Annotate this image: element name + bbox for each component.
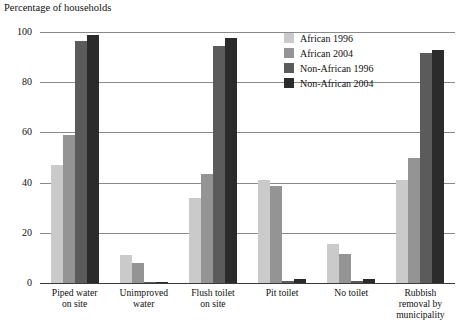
y-axis-tick-label: 40 — [4, 177, 32, 188]
bar — [213, 46, 225, 283]
legend-label: Non-African 2004 — [300, 78, 374, 89]
y-axis-tick-label: 0 — [4, 277, 32, 288]
x-axis-label: Rubbishremoval bymunicipality — [378, 287, 463, 320]
legend-item: African 2004 — [284, 46, 404, 60]
bar — [363, 279, 375, 283]
bar — [420, 53, 432, 283]
bar — [432, 50, 444, 283]
legend-swatch-icon — [284, 48, 294, 58]
bar — [156, 282, 168, 283]
bar — [75, 41, 87, 283]
x-axis-line — [40, 283, 455, 284]
bar — [87, 35, 99, 283]
legend-item: Non-African 2004 — [284, 76, 404, 90]
bar — [132, 263, 144, 283]
gridline — [40, 183, 455, 184]
gridline — [40, 233, 455, 234]
y-axis-tick-label: 80 — [4, 76, 32, 87]
bar — [120, 255, 132, 283]
legend-label: African 1996 — [300, 33, 353, 44]
x-axis-label-line: on site — [170, 298, 255, 309]
x-axis-label-line: removal by — [378, 298, 463, 309]
bar-group — [120, 32, 168, 283]
bar — [144, 282, 156, 283]
x-axis-label-line: Rubbish — [378, 287, 463, 298]
bar — [201, 174, 213, 283]
bar-group — [189, 32, 237, 283]
legend-label: African 2004 — [300, 48, 353, 59]
bar — [408, 158, 420, 284]
legend-item: Non-African 1996 — [284, 61, 404, 75]
y-axis-tick-label: 100 — [4, 26, 32, 37]
y-axis-tick-label: 60 — [4, 126, 32, 137]
y-axis-title: Percentage of households — [4, 2, 124, 14]
bar — [294, 279, 306, 283]
bar-chart: Percentage of households African 1996Afr… — [0, 0, 465, 326]
chart-legend: African 1996African 2004Non-African 1996… — [284, 31, 404, 91]
legend-item: African 1996 — [284, 31, 404, 45]
bar — [270, 186, 282, 283]
legend-swatch-icon — [284, 63, 294, 73]
bar-group — [51, 32, 99, 283]
bar — [339, 254, 351, 283]
bar — [327, 244, 339, 283]
bar — [351, 281, 363, 284]
x-axis-label-line: municipality — [378, 309, 463, 320]
bar — [396, 180, 408, 283]
bar — [63, 135, 75, 283]
bar — [258, 180, 270, 283]
bar — [51, 165, 63, 283]
gridline — [40, 132, 455, 133]
legend-swatch-icon — [284, 78, 294, 88]
bar — [225, 38, 237, 283]
bar — [282, 281, 294, 284]
legend-label: Non-African 1996 — [300, 63, 374, 74]
y-axis-tick-label: 20 — [4, 227, 32, 238]
legend-swatch-icon — [284, 33, 294, 43]
bar — [189, 198, 201, 283]
